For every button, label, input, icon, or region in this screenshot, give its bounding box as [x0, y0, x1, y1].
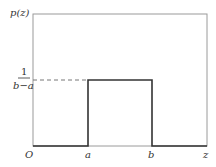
y-axis-label: p(z) — [10, 8, 29, 18]
fraction-numerator: 1 — [21, 67, 27, 77]
x-tick-b: b — [148, 150, 154, 160]
fraction-denominator: b−a — [13, 81, 34, 91]
x-tick-a: a — [85, 150, 91, 160]
x-axis-label: z — [203, 150, 208, 160]
pdf-curve — [33, 80, 207, 146]
origin-label: O — [25, 150, 33, 160]
